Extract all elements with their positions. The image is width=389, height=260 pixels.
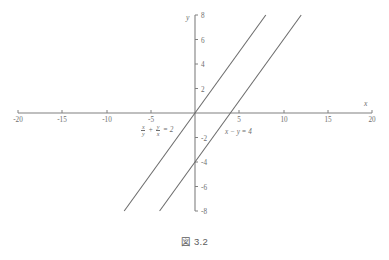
fraction-denominator: y <box>141 130 145 137</box>
y-tick-label: 6 <box>201 37 205 45</box>
equation-label-series-1: x y + y x = 2 <box>141 124 174 138</box>
x-tick-label: -10 <box>102 116 112 124</box>
plus-operator: + <box>148 127 154 134</box>
y-tick-label: -2 <box>201 135 207 143</box>
coordinate-plot: -20 -15 -10 -5 5 10 15 20 8 6 4 2 -2 -4 … <box>0 0 389 232</box>
y-tick-label: 4 <box>201 61 205 69</box>
x-tick-label: 5 <box>237 116 241 124</box>
equals-value: = 2 <box>162 127 174 134</box>
y-tick-label: -8 <box>201 208 207 216</box>
y-axis-label: y <box>185 13 190 22</box>
y-tick-label: -4 <box>201 159 207 167</box>
x-axis-label: x <box>363 99 368 108</box>
figure-caption: 図 3.2 <box>0 234 389 248</box>
y-tick-labels: 8 6 4 2 -2 -4 -6 -8 <box>201 12 207 216</box>
y-tick-label: -6 <box>201 184 207 192</box>
fraction-y-over-x: y x <box>156 124 160 138</box>
y-tick-label: 2 <box>201 86 205 94</box>
x-tick-label: 20 <box>368 116 376 124</box>
equation-label-series-2: x − y = 4 <box>225 129 252 136</box>
x-tick-label: 10 <box>280 116 288 124</box>
x-tick-label: -5 <box>148 116 154 124</box>
figure-container: -20 -15 -10 -5 5 10 15 20 8 6 4 2 -2 -4 … <box>0 0 389 260</box>
x-tick-label: -20 <box>13 116 23 124</box>
fraction-denominator: x <box>156 130 160 137</box>
y-tick-label: 8 <box>201 12 205 20</box>
x-tick-label: -15 <box>57 116 67 124</box>
x-tick-label: 15 <box>324 116 332 124</box>
fraction-x-over-y: x y <box>141 124 145 138</box>
